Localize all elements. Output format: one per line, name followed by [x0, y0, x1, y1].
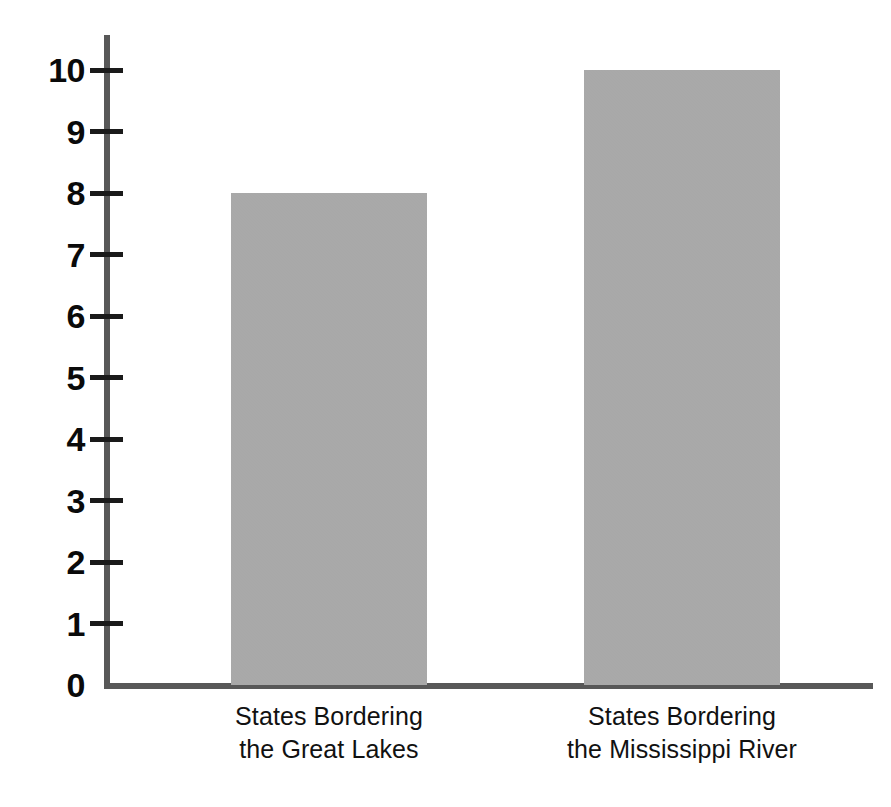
category-label-line2: the Great Lakes [129, 733, 529, 766]
y-axis-tick-label: 5 [15, 361, 85, 395]
y-axis-tick-label: 8 [15, 176, 85, 210]
y-axis-tick [90, 375, 123, 380]
y-axis-tick [90, 191, 123, 196]
y-axis-tick-label: 0 [15, 668, 85, 702]
bar-2 [584, 70, 780, 685]
y-axis-tick-label: 6 [15, 299, 85, 333]
category-label-2: States Borderingthe Mississippi River [482, 700, 882, 766]
y-axis-tick-label: 3 [15, 484, 85, 518]
bar-1 [231, 193, 427, 685]
y-axis-tick-label: 10 [15, 53, 85, 87]
y-axis-tick [90, 498, 123, 503]
category-label-line1: States Bordering [235, 702, 423, 730]
y-axis-tick-label: 4 [15, 422, 85, 456]
y-axis-tick [90, 252, 123, 257]
category-label-line1: States Bordering [588, 702, 776, 730]
y-axis-tick-label: 9 [15, 115, 85, 149]
category-label-1: States Borderingthe Great Lakes [129, 700, 529, 766]
y-axis-tick [90, 314, 123, 319]
y-axis-tick [90, 68, 123, 73]
category-label-line2: the Mississippi River [482, 733, 882, 766]
y-axis-tick [90, 621, 123, 626]
y-axis-tick-label: 1 [15, 607, 85, 641]
y-axis-tick [90, 129, 123, 134]
bar-chart: 109876543210 States Borderingthe Great L… [0, 0, 891, 807]
y-axis-tick [90, 560, 123, 565]
y-axis-tick [90, 437, 123, 442]
y-axis-tick-label: 2 [15, 545, 85, 579]
y-axis-tick-label: 7 [15, 238, 85, 272]
